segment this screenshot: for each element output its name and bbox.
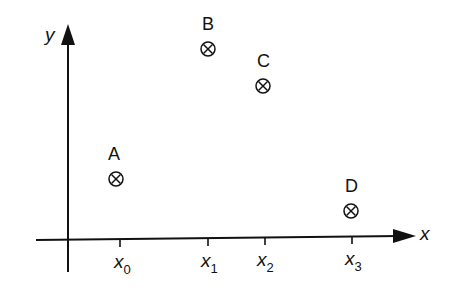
y-axis: y <box>43 24 75 272</box>
x-axis-line <box>36 236 400 240</box>
x-axis-arrowhead-icon <box>393 229 416 243</box>
point-c-label: C <box>257 51 270 71</box>
point-a: A <box>108 144 123 186</box>
y-axis-label: y <box>43 24 56 45</box>
x-axis: x x0 x1 x2 x3 <box>36 223 431 277</box>
point-d: D <box>344 176 358 218</box>
tick-label-x0: x0 <box>113 251 131 277</box>
tick-label-x2: x2 <box>256 249 274 275</box>
coordinate-diagram: y x x0 x1 x2 x3 A B <box>0 0 453 295</box>
tick-label-x3: x3 <box>344 248 362 274</box>
point-c: C <box>256 51 270 93</box>
circled-x-marker-icon <box>256 79 270 93</box>
circled-x-marker-icon <box>344 204 358 218</box>
circled-x-marker-icon <box>201 42 215 56</box>
point-a-label: A <box>108 144 120 164</box>
y-axis-arrowhead-icon <box>61 24 75 45</box>
point-b-label: B <box>202 14 214 34</box>
x-axis-label: x <box>419 223 431 244</box>
circled-x-marker-icon <box>109 172 123 186</box>
tick-label-x1: x1 <box>200 250 218 276</box>
point-d-label: D <box>345 176 358 196</box>
point-b: B <box>201 14 215 56</box>
